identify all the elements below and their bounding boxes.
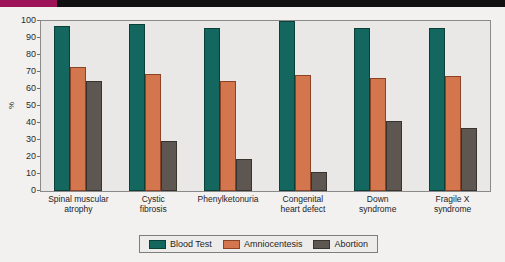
bar[interactable] xyxy=(461,128,477,191)
bar-groups-layer xyxy=(41,21,490,191)
x-axis-category-label-line: heart defect xyxy=(266,204,340,214)
legend-item[interactable]: Amniocentesis xyxy=(223,239,303,249)
legend-color-swatch xyxy=(149,240,166,249)
legend-item[interactable]: Abortion xyxy=(313,239,368,249)
bar-chart-figure: % 1009080706050403020100 Spinal muscular… xyxy=(0,7,505,262)
legend-color-swatch xyxy=(223,240,240,249)
bar[interactable] xyxy=(445,76,461,191)
bar[interactable] xyxy=(370,78,386,191)
bar-group xyxy=(279,21,327,191)
bar-group xyxy=(204,21,252,191)
bar[interactable] xyxy=(354,28,370,191)
chart-legend: Blood TestAmniocentesisAbortion xyxy=(139,235,378,253)
legend-color-swatch xyxy=(313,240,330,249)
top-page-bar-accent xyxy=(0,0,57,7)
bar-group xyxy=(54,21,102,191)
x-axis-category-label-line: syndrome xyxy=(341,204,415,214)
bar[interactable] xyxy=(161,141,177,191)
x-axis-category-label-line: Cystic xyxy=(116,194,190,204)
y-axis-tick-marks xyxy=(0,20,44,192)
bar[interactable] xyxy=(295,75,311,191)
bar-group xyxy=(129,21,177,191)
top-page-bar xyxy=(0,0,505,7)
bar[interactable] xyxy=(70,67,86,191)
x-axis-category-label-line: Phenylketonuria xyxy=(191,194,265,204)
bar[interactable] xyxy=(145,74,161,191)
x-axis-category-label: Spinal muscularatrophy xyxy=(41,194,115,214)
legend-item[interactable]: Blood Test xyxy=(149,239,212,249)
x-axis-category-label: Fragile Xsyndrome xyxy=(416,194,490,214)
bar[interactable] xyxy=(220,81,236,191)
bar[interactable] xyxy=(86,81,102,192)
x-axis-category-label-line: Congenital xyxy=(266,194,340,204)
bar-group xyxy=(354,21,402,191)
bar[interactable] xyxy=(204,28,220,191)
bar[interactable] xyxy=(429,28,445,191)
bar[interactable] xyxy=(129,24,145,191)
legend-label: Abortion xyxy=(334,239,368,249)
bar[interactable] xyxy=(236,159,252,191)
legend-label: Amniocentesis xyxy=(244,239,303,249)
bar[interactable] xyxy=(311,172,327,191)
legend-label: Blood Test xyxy=(170,239,212,249)
x-axis-category-label: Phenylketonuria xyxy=(191,194,265,214)
x-axis-category-label-line: Fragile X xyxy=(416,194,490,204)
x-axis-category-label-line: fibrosis xyxy=(116,204,190,214)
bar-group xyxy=(429,21,477,191)
x-axis-category-label: Downsyndrome xyxy=(341,194,415,214)
bar[interactable] xyxy=(54,26,70,191)
x-axis-category-label: Congenitalheart defect xyxy=(266,194,340,214)
x-axis-category-label-line: Down xyxy=(341,194,415,204)
x-axis-category-label-line: syndrome xyxy=(416,204,490,214)
x-axis-category-label-line: atrophy xyxy=(41,204,115,214)
bar[interactable] xyxy=(279,21,295,191)
bar[interactable] xyxy=(386,121,402,191)
x-axis-category-label: Cysticfibrosis xyxy=(116,194,190,214)
x-axis-category-labels: Spinal muscularatrophyCysticfibrosisPhen… xyxy=(41,194,490,214)
x-axis-category-label-line: Spinal muscular xyxy=(41,194,115,204)
